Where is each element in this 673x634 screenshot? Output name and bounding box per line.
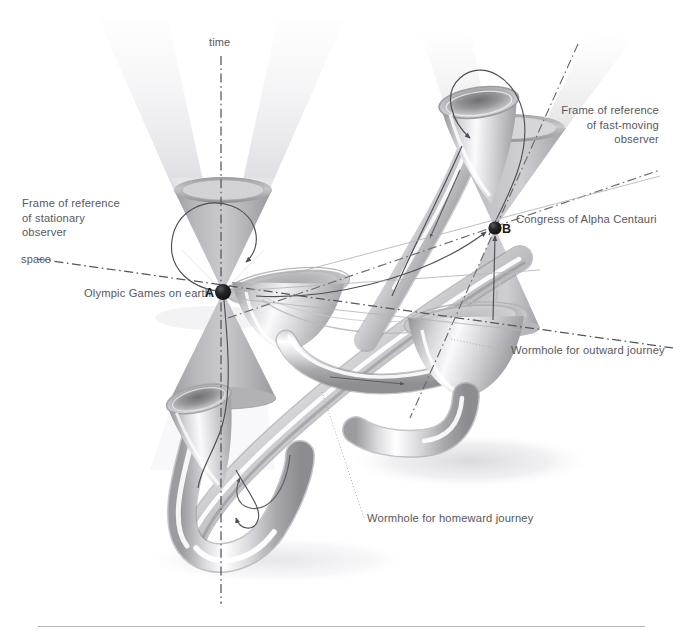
point-b-letter: B — [502, 222, 511, 236]
spacetime-diagram — [0, 0, 673, 634]
footer-rule — [38, 626, 645, 627]
event-point-b — [488, 221, 501, 234]
figure-root: Frame of reference of stationary observe… — [0, 0, 673, 634]
point-a-letter: A — [205, 286, 214, 300]
space-axis-line — [37, 259, 673, 348]
event-point-a — [215, 284, 231, 300]
axes-stationary-frame — [37, 56, 673, 604]
